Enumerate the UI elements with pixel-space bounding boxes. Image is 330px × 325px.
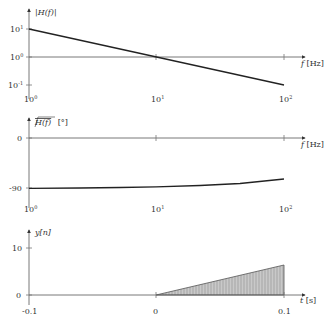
phase-xtick-1: 101 xyxy=(151,204,164,214)
phase-ytick-0: 0 xyxy=(17,134,22,143)
phase-xtick-0: 100 xyxy=(24,204,37,214)
time-ytick-10: 10 xyxy=(12,244,22,253)
mag-xtick-0: 100 xyxy=(24,94,37,104)
time-plot: y[n] 10 0 -0.1 0 0.1 t [s] xyxy=(12,228,316,316)
mag-ytick-minus1: 10-1 xyxy=(8,80,23,90)
mag-xtick-1: 101 xyxy=(151,94,164,104)
phase-curve xyxy=(29,179,284,188)
mag-x-label: f [Hz] xyxy=(300,59,324,68)
time-response-area xyxy=(156,265,284,295)
time-xtick-minus01: -0.1 xyxy=(22,307,37,316)
magnitude-plot: |H(f)| 101 100 10-1 100 101 102 f [Hz] xyxy=(8,8,324,104)
phase-y-label: H(f) [°] xyxy=(34,118,68,127)
phase-xtick-2: 102 xyxy=(279,204,292,214)
phase-plot: H(f) [°] 0 -90 100 101 102 f [Hz] xyxy=(9,117,324,214)
time-xtick-01: 0.1 xyxy=(278,307,291,316)
mag-y-label: |H(f)| xyxy=(35,8,57,17)
time-x-label: t [s] xyxy=(300,296,316,305)
time-xtick-0: 0 xyxy=(153,307,158,316)
time-ytick-0: 0 xyxy=(16,291,21,300)
phase-x-label: f [Hz] xyxy=(300,140,324,149)
mag-ytick-1: 101 xyxy=(10,24,23,34)
mag-xtick-2: 102 xyxy=(279,94,292,104)
time-y-label: y[n] xyxy=(34,228,52,237)
phase-ytick-minus90: -90 xyxy=(9,184,22,193)
chart-figure: |H(f)| 101 100 10-1 100 101 102 f [Hz] H… xyxy=(0,0,330,325)
mag-ytick-0: 100 xyxy=(10,52,23,62)
